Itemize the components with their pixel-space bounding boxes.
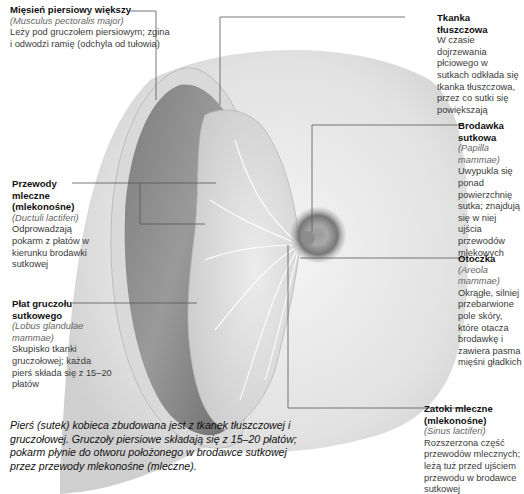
label-description: Skupisko tkanki gruczołowej; każda pierś… [12, 344, 112, 390]
label-lactiferous-sinus: Zatoki mleczne (mlekonośne) (Sinus lacti… [424, 403, 522, 494]
label-latin: (Ductuli lactiferi) [12, 213, 92, 225]
label-areola: Otoczka (Areola mammae) Okrągłe, silniej… [458, 253, 522, 369]
breast-anatomy-diagram: Mięsień piersiowy większy (Musculus pect… [0, 0, 524, 494]
label-milk-ducts: Przewody mleczne (mlekonośne) (Ductuli l… [12, 178, 92, 271]
label-description: Odprowadzają pokarm z płatów w kierunku … [12, 224, 92, 270]
nipple-shape [301, 231, 315, 245]
label-gland-lobe: Płat gruczołu sutkowego (Lobus glandulae… [12, 298, 112, 391]
label-title: Przewody mleczne (mlekonośne) [12, 178, 92, 213]
label-title: Otoczka [458, 253, 522, 265]
label-pectoralis-major: Mięsień piersiowy większy (Musculus pect… [10, 4, 170, 50]
label-title: Tkanka tłuszczowa [437, 12, 519, 35]
label-latin: (Sinus lactiferi) [424, 426, 522, 438]
label-title: Brodawka sutkowa [458, 120, 522, 143]
label-latin: (Musculus pectoralis major) [10, 16, 170, 28]
label-title: Zatoki mleczne (mlekonośne) [424, 403, 522, 426]
label-latin: (Papilla mammae) [458, 143, 522, 166]
label-fat-tissue: Tkanka tłuszczowa W czasie dojrzewania p… [437, 12, 519, 116]
label-description: W czasie dojrzewania płciowego w sutkach… [437, 35, 519, 116]
label-latin: (Lobus glandulae mammae) [12, 321, 112, 344]
label-description: Uwypukla się ponad powierzchnię sutka; z… [458, 166, 522, 259]
label-description: Rozszerzona część przewodów mlecznych; l… [424, 438, 522, 494]
label-description: Okrągłe, silniej przebarwione pole skóry… [458, 288, 522, 369]
diagram-caption: Pierś (sutek) kobieca zbudowana jest z t… [10, 419, 310, 473]
label-nipple: Brodawka sutkowa (Papilla mammae) Uwypuk… [458, 120, 522, 259]
label-description: Leży pod gruczołem piersiowym; zgina i o… [10, 27, 170, 50]
areola-shape [290, 207, 346, 263]
label-latin: (Areola mammae) [458, 265, 522, 288]
label-title: Płat gruczołu sutkowego [12, 298, 112, 321]
label-title: Mięsień piersiowy większy [10, 4, 170, 16]
